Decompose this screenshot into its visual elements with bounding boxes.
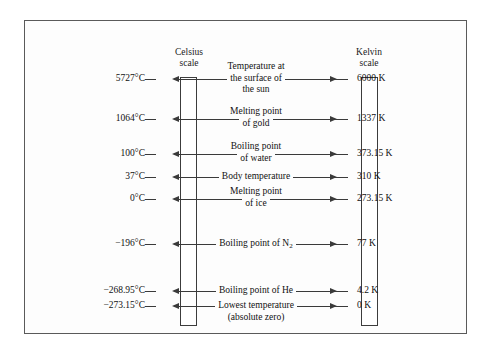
row-description-line: of gold	[185, 118, 327, 130]
kelvin-value-label: 4.2 K	[357, 285, 378, 295]
right-arrow-icon	[330, 241, 337, 247]
kelvin-tick-mark	[337, 177, 348, 178]
celsius-tick-mark	[145, 154, 156, 155]
celsius-value-label: −268.95°C	[103, 285, 145, 295]
row-description: Boiling point of He	[185, 285, 327, 297]
left-arrow-icon	[172, 241, 179, 247]
row-description: Boiling pointof water	[185, 141, 327, 164]
right-arrow-icon	[330, 288, 337, 294]
row-description: Boiling point of N2	[185, 238, 327, 253]
row-description: Melting pointof gold	[185, 106, 327, 129]
kelvin-value-label: 6000 K	[357, 73, 385, 83]
row-description: Temperature atthe surface ofthe sun	[185, 61, 327, 96]
row-description-line: of water	[185, 153, 327, 165]
celsius-value-label: 0°C	[130, 193, 145, 203]
right-arrow-icon	[330, 174, 337, 180]
kelvin-value-label: 0 K	[357, 300, 371, 310]
celsius-value-label: 5727°C	[116, 73, 145, 83]
kelvin-tick-mark	[337, 79, 348, 80]
left-arrow-icon	[172, 196, 179, 202]
celsius-tick-mark	[145, 306, 156, 307]
row-description: Melting pointof ice	[185, 186, 327, 209]
row-description: Lowest temperature(absolute zero)	[185, 300, 327, 323]
left-arrow-icon	[172, 76, 179, 82]
kelvin-scale-title: Kelvin scale	[324, 47, 414, 69]
kelvin-value-label: 310 K	[357, 171, 381, 181]
celsius-tick-mark	[145, 199, 156, 200]
celsius-value-label: −196°C	[115, 238, 145, 248]
celsius-tick-mark	[145, 177, 156, 178]
kelvin-tick-mark	[337, 291, 348, 292]
right-arrow-icon	[330, 303, 337, 309]
celsius-tick-mark	[145, 291, 156, 292]
row-description-line: Boiling point of N2	[185, 238, 327, 253]
row-description-line: the surface of	[185, 73, 327, 85]
celsius-scale-title-line1: Celsius	[144, 47, 234, 58]
left-arrow-icon	[172, 151, 179, 157]
row-description-line: Lowest temperature	[185, 300, 327, 312]
left-arrow-icon	[172, 116, 179, 122]
right-arrow-icon	[330, 116, 337, 122]
kelvin-tick-mark	[337, 154, 348, 155]
celsius-value-label: 100°C	[121, 148, 145, 158]
celsius-value-label: 1064°C	[116, 113, 145, 123]
celsius-tick-mark	[145, 244, 156, 245]
right-arrow-icon	[330, 196, 337, 202]
celsius-tick-mark	[145, 119, 156, 120]
left-arrow-icon	[172, 174, 179, 180]
row-description-line: Boiling point	[185, 141, 327, 153]
celsius-value-label: −273.15°C	[103, 300, 145, 310]
celsius-value-label: 37°C	[125, 171, 145, 181]
row-description-line: of ice	[185, 198, 327, 210]
right-arrow-icon	[330, 151, 337, 157]
row-description-line: (absolute zero)	[185, 312, 327, 324]
kelvin-scale-title-line1: Kelvin	[324, 47, 414, 58]
kelvin-tick-mark	[337, 199, 348, 200]
row-description-line: Boiling point of He	[185, 285, 327, 297]
kelvin-tick-mark	[337, 244, 348, 245]
kelvin-tick-mark	[337, 119, 348, 120]
figure-frame: Celsius scale Kelvin scale 5727°CTempera…	[24, 20, 467, 334]
left-arrow-icon	[172, 288, 179, 294]
kelvin-value-label: 1337 K	[357, 113, 385, 123]
right-arrow-icon	[330, 76, 337, 82]
row-description-line: Temperature at	[185, 61, 327, 73]
kelvin-value-label: 373.15 K	[357, 148, 392, 158]
figure-canvas: Celsius scale Kelvin scale 5727°CTempera…	[0, 0, 491, 352]
kelvin-scale-title-line2: scale	[324, 58, 414, 69]
row-description-line: Body temperature	[185, 171, 327, 183]
kelvin-tick-mark	[337, 306, 348, 307]
kelvin-value-label: 273.15 K	[357, 193, 392, 203]
celsius-tick-mark	[145, 79, 156, 80]
kelvin-value-label: 77 K	[357, 238, 376, 248]
row-description: Body temperature	[185, 171, 327, 183]
row-description-line: Melting point	[185, 106, 327, 118]
row-description-line: Melting point	[185, 186, 327, 198]
row-description-line: the sun	[185, 84, 327, 96]
left-arrow-icon	[172, 303, 179, 309]
